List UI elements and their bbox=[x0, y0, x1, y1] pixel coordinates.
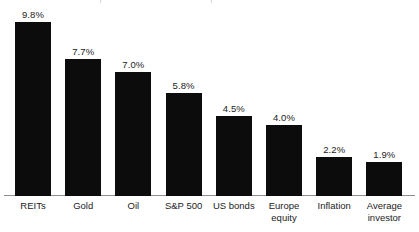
bar-chart: 9.8%REITs7.7%Gold7.0%Oil5.8%S&P 5004.5%U… bbox=[0, 0, 419, 232]
x-axis-category-label: Average investor bbox=[353, 200, 415, 224]
bar-group: 4.5%US bonds bbox=[216, 0, 252, 232]
bar-group: 7.0%Oil bbox=[115, 0, 151, 232]
bar bbox=[115, 72, 151, 196]
bar bbox=[366, 162, 402, 196]
bar bbox=[316, 157, 352, 196]
bar-group: 5.8%S&P 500 bbox=[166, 0, 202, 232]
bar bbox=[266, 125, 302, 196]
bar bbox=[166, 93, 202, 196]
bar-group: 7.7%Gold bbox=[65, 0, 101, 232]
bar-value-label: 9.8% bbox=[5, 9, 61, 20]
bar-value-label: 7.7% bbox=[55, 46, 111, 57]
bar-group: 2.2%Inflation bbox=[316, 0, 352, 232]
bar-group: 9.8%REITs bbox=[15, 0, 51, 232]
bar-value-label: 2.2% bbox=[306, 144, 362, 155]
bar-value-label: 1.9% bbox=[356, 149, 412, 160]
bar-group: 4.0%Europe equity bbox=[266, 0, 302, 232]
bar bbox=[65, 59, 101, 196]
bar-value-label: 5.8% bbox=[156, 80, 212, 91]
plot-area: 9.8%REITs7.7%Gold7.0%Oil5.8%S&P 5004.5%U… bbox=[0, 0, 419, 232]
bar-value-label: 4.5% bbox=[206, 103, 262, 114]
bar-value-label: 4.0% bbox=[256, 112, 312, 123]
bar bbox=[216, 116, 252, 196]
bar-group: 1.9%Average investor bbox=[366, 0, 402, 232]
bar bbox=[15, 22, 51, 196]
bar-value-label: 7.0% bbox=[105, 59, 161, 70]
